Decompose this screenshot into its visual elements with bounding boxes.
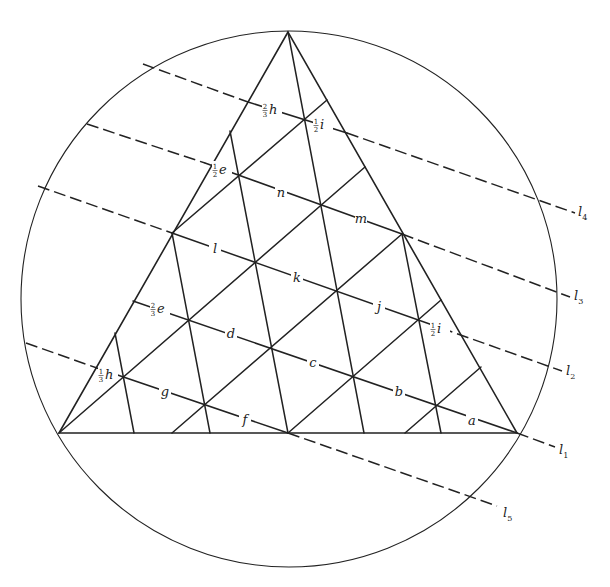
svg-text:2: 2 <box>314 126 318 134</box>
segment-label-g: g <box>159 383 171 399</box>
line-l3 <box>87 124 570 297</box>
svg-text:i: i <box>437 321 441 336</box>
grid-line <box>288 32 364 433</box>
segment-label-1-3-h: 13h <box>98 366 118 384</box>
svg-text:2: 2 <box>213 171 217 179</box>
solid-segment <box>97 368 288 433</box>
line-l1 <box>133 301 555 447</box>
grid-lines <box>59 32 481 433</box>
svg-text:1: 1 <box>314 118 318 126</box>
svg-text:g: g <box>161 384 169 399</box>
svg-text:i: i <box>320 117 324 132</box>
dashed-extension <box>38 186 172 233</box>
svg-text:3: 3 <box>99 376 103 384</box>
svg-text:l: l <box>213 241 217 256</box>
grid-line <box>172 234 402 433</box>
svg-text:2: 2 <box>263 103 267 111</box>
svg-text:1: 1 <box>213 163 217 171</box>
svg-text:3: 3 <box>263 111 267 119</box>
line-label-l3: l3 <box>574 288 583 306</box>
svg-text:3: 3 <box>151 310 155 318</box>
svg-text:1: 1 <box>431 322 435 330</box>
line-label-l4: l4 <box>578 204 587 222</box>
svg-text:c: c <box>309 355 317 370</box>
segment-label-k: k <box>291 269 303 285</box>
svg-text:a: a <box>468 413 476 428</box>
grid-line <box>115 333 134 433</box>
segment-label-j: j <box>373 298 385 314</box>
segment-label-f: f <box>239 411 251 427</box>
line-l4 <box>143 64 575 213</box>
dashed-extension <box>347 133 575 213</box>
solid-segment <box>133 301 517 433</box>
line-l5 <box>26 343 497 506</box>
grid-line <box>59 167 365 433</box>
svg-text:h: h <box>105 367 113 382</box>
svg-text:b: b <box>395 384 403 399</box>
line-label-l5: l5 <box>503 505 512 523</box>
parallel-lines <box>26 64 575 506</box>
svg-text:d: d <box>227 326 235 341</box>
line-label-l1: l1 <box>559 442 568 460</box>
segment-label-l: l <box>209 240 221 256</box>
svg-text:h: h <box>269 102 277 117</box>
svg-text:e: e <box>157 301 165 316</box>
segment-label-1-2-i: 12i <box>430 320 450 338</box>
segment-label-d: d <box>225 325 237 341</box>
segment-label-n: n <box>275 184 287 200</box>
geometry-figure: 23h12i12enmlkj12i23edcba13hgf l4l3l2l1l5 <box>0 0 610 587</box>
svg-text:1: 1 <box>99 368 103 376</box>
segment-label-m: m <box>355 210 367 226</box>
grid-line <box>172 233 210 433</box>
segment-label-1-2-e: 12e <box>212 161 232 179</box>
segment-label-1-2-i: 12i <box>313 116 333 134</box>
segment-label-b: b <box>393 383 405 399</box>
svg-text:e: e <box>219 162 227 177</box>
dashed-extension <box>26 343 97 368</box>
svg-text:2: 2 <box>431 330 435 338</box>
line-label-l2: l2 <box>566 363 575 381</box>
svg-text:k: k <box>293 270 301 285</box>
dashed-extension <box>87 124 205 163</box>
dashed-extension <box>402 234 570 297</box>
dashed-extension <box>143 64 248 102</box>
dashed-extension <box>517 433 555 447</box>
circle-outline <box>21 31 557 567</box>
dashed-extension <box>288 433 497 506</box>
svg-text:m: m <box>355 211 367 226</box>
svg-text:2: 2 <box>151 302 155 310</box>
solid-segment <box>205 163 402 234</box>
grid-line <box>230 131 288 433</box>
dashed-extension <box>441 328 562 371</box>
segment-label-2-3-h: 23h <box>262 101 282 119</box>
segment-label-c: c <box>307 354 319 370</box>
segment-label-a: a <box>466 412 478 428</box>
line-labels: l4l3l2l1l5 <box>503 204 587 523</box>
circumcircle <box>21 31 557 567</box>
svg-text:n: n <box>277 185 285 200</box>
segment-label-2-3-e: 23e <box>150 300 170 318</box>
